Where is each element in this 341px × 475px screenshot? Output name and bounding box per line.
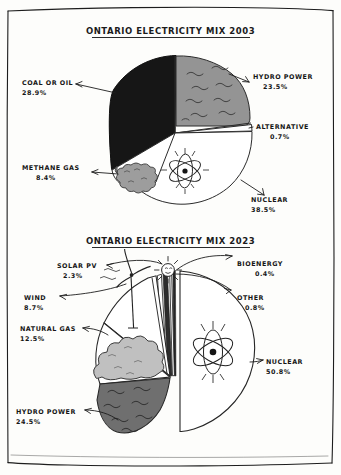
paper-sheet: ONTARIO ELECTRICITY MIX 2003: [0, 0, 341, 475]
pie-slice-hydro-power-2023[interactable]: [97, 378, 170, 433]
label-wind-value: 8.7%: [24, 304, 46, 314]
label-coal-or-oil-text: COAL OR OIL: [22, 79, 73, 87]
label-hydro-power: HYDRO POWER 23.5%: [253, 73, 313, 92]
label-nuclear-2023: NUCLEAR 50.8%: [266, 358, 303, 377]
pie-chart-2023: [0, 228, 341, 475]
pie-chart-2003: [0, 0, 341, 236]
label-natural-gas: NATURAL GAS 12.5%: [20, 325, 76, 344]
label-hydro-power-value: 23.5%: [263, 83, 313, 93]
label-methane-gas-text: METHANE GAS: [22, 164, 80, 172]
label-coal-or-oil: COAL OR OIL 28.9%: [22, 79, 73, 98]
label-alternative-text: ALTERNATIVE: [256, 123, 309, 131]
label-methane-gas-value: 8.4%: [36, 174, 80, 184]
label-nuclear-2023-value: 50.8%: [266, 368, 303, 378]
label-bioenergy-value: 0.4%: [255, 270, 283, 280]
label-hydro-power-2023-value: 24.5%: [16, 418, 76, 428]
label-wind-text: WIND: [24, 294, 46, 302]
label-hydro-power-2023-text: HYDRO POWER: [16, 408, 76, 416]
label-natural-gas-value: 12.5%: [20, 335, 76, 345]
label-solar-pv: SOLAR PV 2.3%: [57, 262, 97, 281]
label-hydro-power-text: HYDRO POWER: [253, 73, 313, 81]
label-alternative: ALTERNATIVE 0.7%: [256, 123, 309, 142]
pie-slice-hydro-power[interactable]: [175, 56, 251, 133]
chart-panel-2003: ONTARIO ELECTRICITY MIX 2003: [0, 0, 341, 236]
label-solar-pv-value: 2.3%: [63, 272, 97, 282]
label-alternative-value: 0.7%: [270, 133, 309, 143]
label-hydro-power-2023: HYDRO POWER 24.5%: [16, 408, 76, 427]
label-nuclear-2003-text: NUCLEAR: [251, 196, 288, 204]
label-bioenergy: BIOENERGY 0.4%: [237, 260, 283, 279]
label-nuclear-2003-value: 38.5%: [251, 206, 288, 216]
label-wind: WIND 8.7%: [24, 294, 46, 313]
label-natural-gas-text: NATURAL GAS: [20, 325, 76, 333]
label-other-value: 0.8%: [245, 304, 265, 314]
chart-panel-2023: ONTARIO ELECTRICITY MIX 2023: [0, 228, 341, 475]
label-bioenergy-text: BIOENERGY: [237, 260, 283, 268]
label-nuclear-2003: NUCLEAR 38.5%: [251, 196, 288, 215]
label-other: OTHER 0.8%: [237, 294, 265, 313]
label-coal-or-oil-value: 28.9%: [22, 89, 73, 99]
label-methane-gas: METHANE GAS 8.4%: [22, 164, 80, 183]
breeze-lines: [100, 269, 120, 280]
label-other-text: OTHER: [237, 294, 264, 302]
label-nuclear-2023-text: NUCLEAR: [266, 358, 303, 366]
label-solar-pv-text: SOLAR PV: [57, 262, 97, 270]
